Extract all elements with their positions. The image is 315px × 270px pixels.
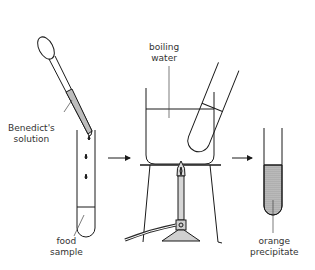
label-benedicts-line2: solution <box>8 134 55 145</box>
label-food-sample: food sample <box>50 236 83 258</box>
label-food-line1: food <box>50 236 83 247</box>
label-orange-precipitate: orange precipitate <box>250 236 299 258</box>
bunsen-burner <box>125 161 200 241</box>
air-hole-collar <box>176 220 186 230</box>
label-boiling-line2: water <box>149 53 179 64</box>
label-boiling-line1: boiling <box>149 42 179 53</box>
pipette-bulb <box>34 34 58 62</box>
label-food-line2: sample <box>50 247 83 258</box>
label-benedicts-solution: Benedict's solution <box>8 123 55 145</box>
label-orange-line2: precipitate <box>250 247 299 258</box>
burner-barrel <box>178 176 184 220</box>
burner-base <box>162 230 200 241</box>
benedicts-leader <box>64 100 72 112</box>
benedicts-solution-fill <box>66 89 92 134</box>
test-tube-food <box>77 130 95 237</box>
label-orange-line1: orange <box>250 236 299 247</box>
label-benedicts-line1: Benedict's <box>8 123 55 134</box>
label-boiling-water: boiling water <box>149 42 179 64</box>
